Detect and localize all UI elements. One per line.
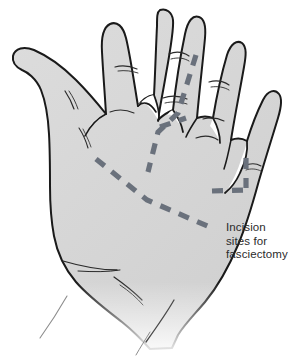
fasciectomy-incision-figure: Incision sites for fasciectomy xyxy=(0,0,302,359)
hand-illustration xyxy=(0,0,302,359)
wrist-fade-overlay xyxy=(20,282,240,359)
incision-annotation-label: Incision sites for fasciectomy xyxy=(226,221,300,262)
hand-outline-group xyxy=(13,9,281,359)
